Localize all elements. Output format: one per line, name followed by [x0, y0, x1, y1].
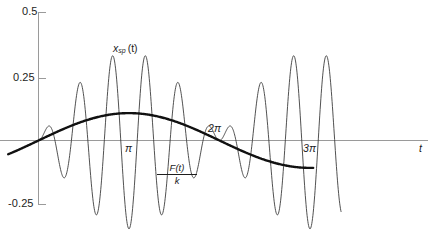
beat-oscillation-figure: 0.5 0.25 -0.25 π 2π 3π t xsp(t) F(t) k	[0, 0, 435, 236]
series-label-x-sp: xsp(t)	[113, 42, 138, 54]
x-sp-subscript: sp	[118, 47, 125, 54]
x-tick-label-pi: π	[125, 142, 132, 154]
x-tick-label-3pi: 3π	[303, 142, 316, 154]
y-tick-label-0-5: 0.5	[22, 5, 38, 17]
series-x-sp-curve	[39, 56, 342, 229]
x-sp-argument: (t)	[128, 42, 138, 54]
series-label-forcing: F(t) k	[157, 163, 197, 187]
y-tick-label-neg-0-25: -0.25	[8, 197, 34, 209]
x-axis-title-t: t	[419, 142, 422, 154]
chart-canvas	[0, 0, 435, 236]
y-tick-label-0-25: 0.25	[13, 71, 35, 83]
forcing-denominator: k	[157, 176, 197, 186]
forcing-numerator: F(t)	[157, 163, 197, 173]
x-tick-label-2pi: 2π	[208, 122, 221, 134]
